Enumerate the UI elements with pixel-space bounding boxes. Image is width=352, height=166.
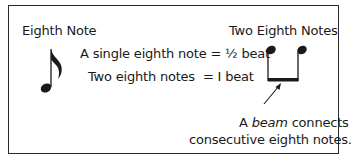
arrow-icon xyxy=(264,83,281,104)
eighth-note-icon xyxy=(39,49,62,94)
beam xyxy=(268,78,299,82)
beamed-eighth-notes-icon xyxy=(265,44,309,81)
